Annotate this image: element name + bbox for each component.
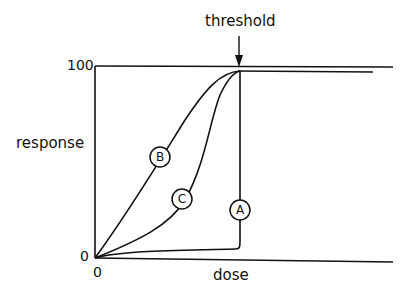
curve-b-label: B <box>155 150 165 164</box>
x-axis <box>95 258 393 262</box>
plateau-line <box>238 71 373 72</box>
top-reference-line <box>95 66 393 67</box>
y-bottom-tick: 0 <box>80 248 89 264</box>
curve-a-label: A <box>235 203 245 217</box>
y-top-tick: 100 <box>67 57 94 73</box>
y-axis-label: response <box>16 134 84 152</box>
x-origin-tick: 0 <box>93 264 102 280</box>
threshold-label: threshold <box>205 12 276 30</box>
threshold-arrow-head <box>235 55 243 67</box>
x-axis-label: dose <box>213 266 249 284</box>
curve-c-label: C <box>177 192 187 206</box>
